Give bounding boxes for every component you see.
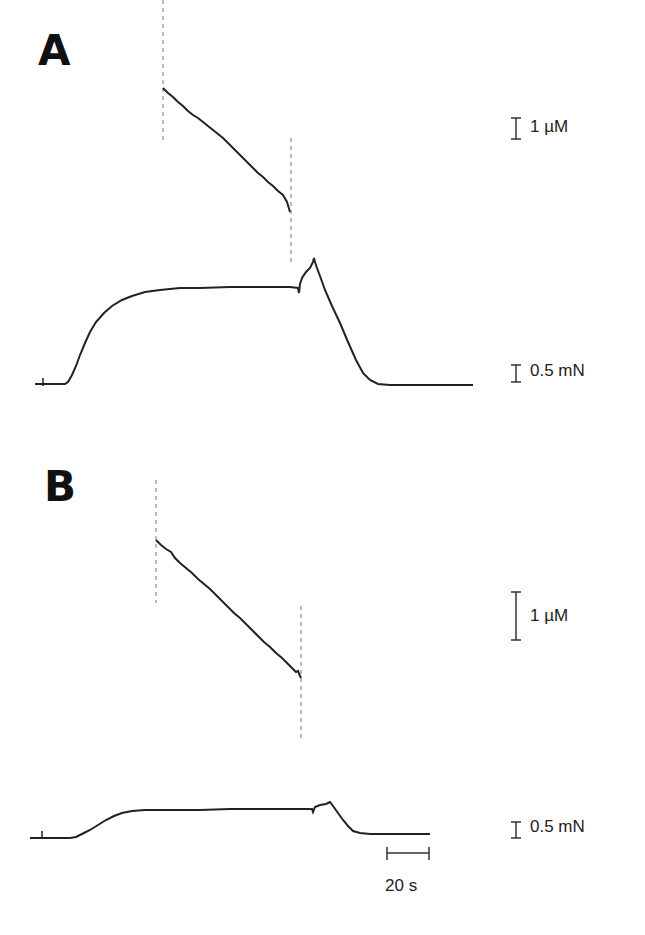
figure: A 1 µM 0.5 mN B 1 µM 0.5 mN 20 s bbox=[0, 0, 645, 935]
panel-a-label: A bbox=[38, 30, 71, 72]
panel-b-time-scale-bar bbox=[387, 847, 429, 860]
panel-a-conc-scale-label: 1 µM bbox=[530, 118, 568, 135]
panel-a-concentration-trace bbox=[163, 88, 290, 212]
panel-a-force-scale-label: 0.5 mN bbox=[530, 362, 585, 379]
panel-b-force-scale-bar bbox=[511, 822, 521, 838]
panel-b-force-scale-label: 0.5 mN bbox=[530, 818, 585, 835]
panel-b-label: B bbox=[44, 466, 76, 508]
panel-b-concentration-trace bbox=[156, 540, 301, 678]
panel-a-conc-scale-bar bbox=[511, 118, 521, 139]
panel-b-time-scale-label: 20 s bbox=[385, 877, 417, 894]
panel-b-conc-scale-label: 1 µM bbox=[530, 607, 568, 624]
panel-b-conc-scale-bar bbox=[511, 592, 521, 640]
panel-a-force-trace bbox=[35, 258, 473, 385]
traces-canvas bbox=[0, 0, 645, 935]
panel-a-force-scale-bar bbox=[511, 365, 521, 382]
panel-b-force-trace bbox=[30, 802, 430, 838]
